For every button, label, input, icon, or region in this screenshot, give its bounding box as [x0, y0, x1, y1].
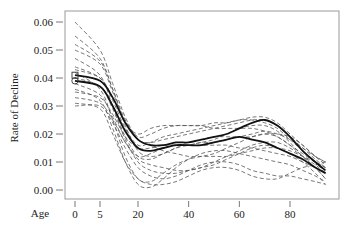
plot-frame — [65, 11, 339, 199]
x-tick-label: 60 — [234, 208, 246, 220]
x-tick-label: 40 — [183, 208, 195, 220]
y-tick-label: 0.02 — [34, 128, 53, 140]
x-tick-label: 0 — [72, 208, 78, 220]
y-axis-title: Rate of Decline — [8, 73, 20, 142]
x-tick-label: 5 — [97, 208, 103, 220]
chart: 0.000.010.020.030.040.050.06 0520406080 … — [0, 0, 353, 234]
x-tick-label: 80 — [285, 208, 297, 220]
y-tick-label: 0.00 — [34, 184, 54, 196]
y-tick-label: 0.06 — [34, 16, 54, 28]
x-tick-label: 20 — [133, 208, 145, 220]
y-tick-label: 0.04 — [34, 72, 54, 84]
y-axis: 0.000.010.020.030.040.050.06 — [34, 16, 63, 196]
y-tick-label: 0.03 — [34, 100, 54, 112]
x-axis: 0520406080 — [72, 201, 296, 220]
y-tick-label: 0.05 — [34, 44, 54, 56]
y-tick-label: 0.01 — [34, 156, 53, 168]
x-axis-title: Age — [31, 207, 49, 219]
